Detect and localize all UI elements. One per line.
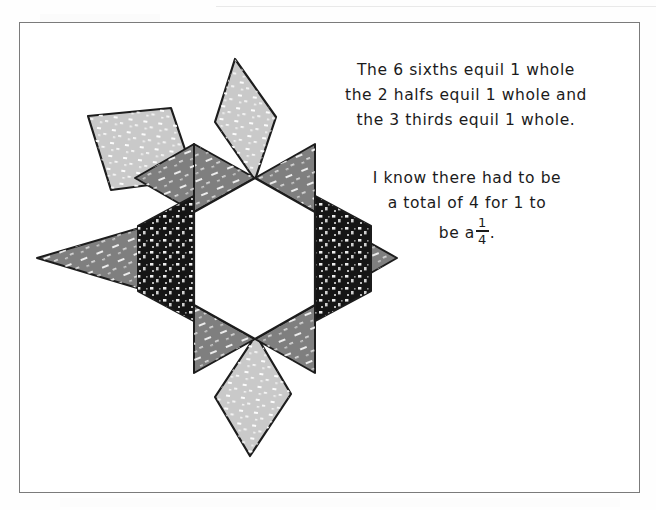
scan-artifact-smudge-bottom — [60, 498, 620, 507]
paragraph-one-line-2: the 2 halfs equil 1 whole and — [341, 83, 591, 108]
handwriting-paragraph-two: I know there had to be a total of 4 for … — [345, 166, 589, 246]
paragraph-two-line-2: a total of 4 for 1 to — [345, 191, 589, 216]
fraction-one-fourth: 14 — [476, 216, 489, 246]
fraction-numerator: 1 — [476, 216, 489, 229]
hexagon-center — [194, 178, 315, 339]
paragraph-two-line-3-text: be a — [439, 224, 475, 242]
fraction-trailing-punctuation: . — [490, 224, 496, 242]
paragraph-two-line-1: I know there had to be — [345, 166, 589, 191]
paragraph-one-line-1: The 6 sixths equil 1 whole — [341, 58, 591, 83]
fraction-denominator: 4 — [476, 233, 489, 246]
trapezoid-left — [138, 196, 194, 321]
worksheet-page: The 6 sixths equil 1 whole the 2 halfs e… — [0, 0, 656, 510]
scan-artifact-line — [216, 6, 656, 7]
handwriting-paragraph-one: The 6 sixths equil 1 whole the 2 halfs e… — [341, 58, 591, 133]
paragraph-two-line-3: be a14. — [345, 216, 589, 246]
paragraph-one-line-3: the 3 thirds equil 1 whole. — [341, 108, 591, 133]
